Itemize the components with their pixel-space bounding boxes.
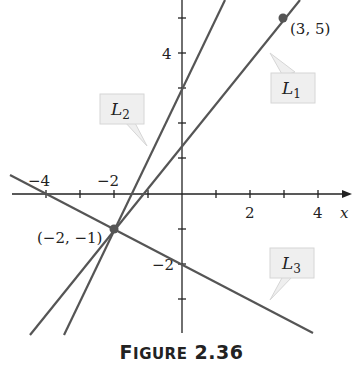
callout-l3-name: L [281, 253, 293, 273]
y-tick-label-4: 4 [162, 45, 172, 63]
point-3-5 [279, 14, 288, 23]
x-axis-label: x [340, 204, 349, 222]
axes [12, 0, 352, 333]
x-tick-label-neg2: −2 [97, 172, 119, 190]
callout-l3-sub: 3 [293, 262, 301, 276]
x-tick-label-4: 4 [313, 204, 323, 222]
point-label-3-5: (3, 5) [290, 20, 330, 38]
callout-l1: L1 [270, 53, 315, 103]
callout-l1-sub: 1 [293, 87, 301, 101]
callout-l2-sub: 2 [122, 108, 130, 122]
callout-l2-name: L [110, 99, 122, 119]
point-label-neg2-neg1: (−2, −1) [37, 229, 102, 247]
callout-l3: L3 [270, 248, 314, 300]
caption-first-letter: F [120, 341, 133, 363]
caption-number: 2.36 [195, 341, 244, 363]
x-axis-arrow-icon [342, 190, 352, 198]
point-neg2-neg1 [110, 225, 119, 234]
line-l2 [64, 0, 225, 335]
caption-word: IGURE [133, 345, 187, 363]
line-l3 [10, 175, 313, 333]
callout-l1-name: L [281, 78, 293, 98]
figure-plot: −4 −2 2 4 x 4 −2 (3, 5) (−2, −1) L1 L2 L… [0, 0, 363, 340]
callout-l2: L2 [100, 94, 147, 146]
x-tick-label-2: 2 [245, 204, 255, 222]
figure-caption: FIGURE 2.36 [0, 341, 363, 363]
